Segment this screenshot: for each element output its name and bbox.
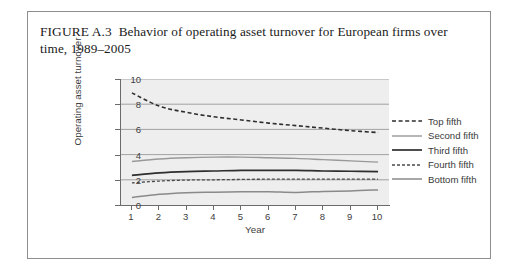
y-tick-mark [115, 205, 120, 206]
legend-label: Fourth fifth [428, 159, 474, 170]
series-line-bottom-fifth [132, 190, 378, 198]
y-tick-label: 2 [121, 174, 141, 185]
x-axis-title: Year [120, 224, 390, 235]
x-tick-mark [131, 206, 132, 210]
legend-item-top-fifth[interactable]: Top fifth [392, 114, 512, 129]
chart: 0246810 12345678910 Operating asset turn… [59, 74, 479, 249]
x-tick-mark [322, 206, 323, 210]
x-tick-label: 6 [260, 211, 276, 222]
x-tick-mark [350, 206, 351, 210]
x-tick-mark [377, 206, 378, 210]
y-axis-title: Operating asset turnover [72, 36, 83, 148]
y-tick-mark [115, 79, 120, 80]
y-tick-label: 6 [121, 124, 141, 135]
y-tick-mark [115, 129, 120, 130]
y-tick-label: 4 [121, 149, 141, 160]
legend-item-second-fifth[interactable]: Second fifth [392, 129, 512, 144]
series-line-top-fifth [132, 93, 378, 133]
legend-label: Bottom fifth [428, 174, 477, 185]
x-tick-mark [295, 206, 296, 210]
x-tick-mark [158, 206, 159, 210]
x-tick-label: 8 [314, 211, 330, 222]
x-tick-mark [186, 206, 187, 210]
y-tick-mark [115, 180, 120, 181]
legend-label: Top fifth [428, 116, 462, 127]
series-line-second-fifth [132, 157, 378, 162]
legend-line-swatch [392, 131, 422, 141]
legend-item-fourth-fifth[interactable]: Fourth fifth [392, 158, 512, 173]
x-tick-label: 7 [287, 211, 303, 222]
x-tick-label: 10 [369, 211, 385, 222]
x-tick-label: 3 [178, 211, 194, 222]
legend-line-swatch [392, 160, 422, 170]
y-tick-mark [115, 155, 120, 156]
legend-label: Second fifth [428, 130, 479, 141]
y-tick-label: 8 [121, 99, 141, 110]
plot-area [121, 79, 389, 205]
chart-legend: Top fifthSecond fifthThird fifthFourth f… [392, 114, 512, 187]
x-tick-label: 1 [123, 211, 139, 222]
legend-line-swatch [392, 116, 422, 126]
y-tick-mark [115, 104, 120, 105]
legend-line-swatch [392, 174, 422, 184]
legend-line-swatch [392, 145, 422, 155]
legend-label: Third fifth [428, 145, 468, 156]
x-tick-label: 9 [342, 211, 358, 222]
x-tick-label: 2 [150, 211, 166, 222]
x-tick-mark [213, 206, 214, 210]
x-tick-label: 4 [205, 211, 221, 222]
figure-caption: FIGURE A.3Behavior of operating asset tu… [40, 23, 476, 57]
x-tick-label: 5 [232, 211, 248, 222]
figure-frame: FIGURE A.3Behavior of operating asset tu… [27, 11, 491, 259]
y-tick-label: 10 [121, 74, 141, 85]
plot-canvas [121, 79, 389, 205]
legend-item-third-fifth[interactable]: Third fifth [392, 143, 512, 158]
x-tick-mark [240, 206, 241, 210]
series-line-third-fifth [132, 170, 378, 175]
legend-item-bottom-fifth[interactable]: Bottom fifth [392, 172, 512, 187]
x-tick-mark [268, 206, 269, 210]
